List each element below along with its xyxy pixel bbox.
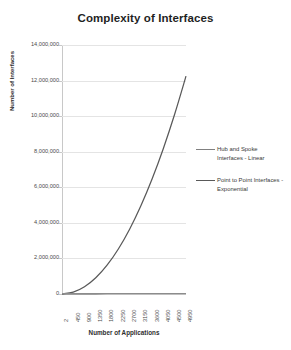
x-axis-tick-label: 1800	[109, 310, 115, 322]
y-axis-tick-label: 0	[13, 291, 59, 297]
y-axis-tick	[59, 294, 62, 295]
x-axis-tick-label: 900	[87, 313, 93, 322]
y-axis-tick-label: 6,000,000	[13, 184, 59, 190]
x-axis-tick-label: 2700	[132, 310, 138, 322]
x-axis-tick-label: 3600	[155, 310, 161, 322]
y-axis-tick-label: 14,000,000	[13, 42, 59, 48]
x-axis-tick-labels: 2450900135018002250270031503600405045004…	[62, 296, 186, 326]
x-axis-tick-label: 1350	[98, 310, 104, 322]
legend-label: Point to Point Interfaces - Exponential	[217, 176, 285, 194]
y-axis-tick-labels: 14,000,00012,000,00010,000,0008,000,0006…	[12, 45, 59, 294]
y-axis-tick-label: 8,000,000	[13, 149, 59, 155]
x-axis-tick-label: 2250	[121, 310, 127, 322]
x-axis-tick-label: 4500	[177, 310, 183, 322]
chart-container: Complexity of Interfaces Number of Inter…	[0, 0, 291, 350]
legend-label: Hub and Spoke Interfaces - Linear	[217, 145, 285, 163]
x-axis-tick-label: 4950	[188, 310, 194, 322]
x-axis-tick-label: 450	[76, 313, 82, 322]
legend-entry[interactable]: Hub and Spoke Interfaces - Linear	[196, 145, 288, 163]
y-axis-tick-label: 4,000,000	[13, 220, 59, 226]
x-axis-tick-label: 2	[64, 319, 70, 322]
series-line-exponential	[62, 76, 186, 294]
y-axis-tick-label: 10,000,000	[13, 113, 59, 119]
x-axis-title: Number of Applications	[58, 329, 190, 336]
chart-legend: Hub and Spoke Interfaces - LinearPoint t…	[196, 145, 288, 208]
x-axis-baseline	[62, 293, 186, 294]
legend-line-swatch-icon	[196, 180, 215, 181]
x-axis-tick-label: 4050	[166, 310, 172, 322]
series-lines	[62, 45, 186, 294]
chart-title: Complexity of Interfaces	[0, 12, 291, 24]
legend-entry[interactable]: Point to Point Interfaces - Exponential	[196, 176, 288, 194]
plot-area	[62, 45, 186, 294]
y-axis-tick-label: 2,000,000	[13, 255, 59, 261]
y-axis-tick-label: 12,000,000	[13, 78, 59, 84]
legend-line-swatch-icon	[196, 149, 215, 150]
x-axis-tick-label: 3150	[143, 310, 149, 322]
